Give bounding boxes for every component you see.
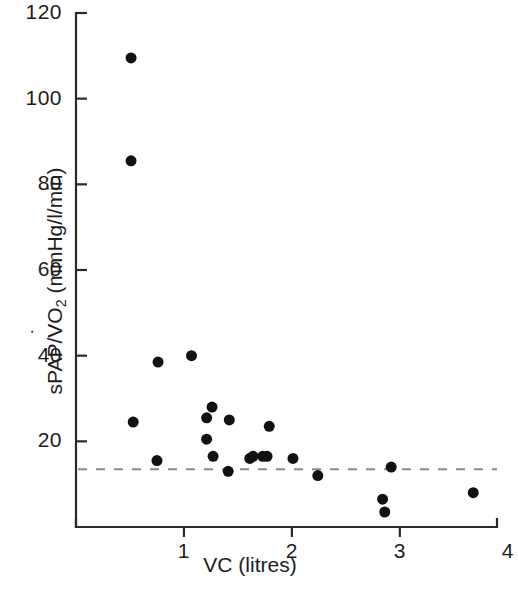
y-axis-title: sPAP/VO2 (mmHg/l/min) (43, 131, 69, 431)
y-axis-title-units: (mmHg/l/min) (43, 168, 66, 300)
data-point (201, 412, 212, 423)
data-point (128, 417, 139, 428)
y-axis-title-o: O (43, 307, 66, 323)
data-point (126, 155, 137, 166)
data-point (386, 462, 397, 473)
data-point (208, 451, 219, 462)
data-point (207, 402, 218, 413)
data-point (153, 357, 164, 368)
data-point (262, 451, 273, 462)
y-tick-label: 100 (0, 86, 62, 110)
data-point (248, 451, 259, 462)
data-points (126, 52, 479, 517)
y-axis-title-prefix: sPAP/ (43, 338, 66, 395)
axes (67, 13, 500, 537)
data-point (224, 414, 235, 425)
data-point (468, 487, 479, 498)
data-point (151, 455, 162, 466)
y-tick-label: 20 (0, 428, 62, 452)
data-point (223, 466, 234, 477)
data-point (126, 52, 137, 63)
data-point (379, 507, 390, 518)
data-point (264, 421, 275, 432)
y-axis-title-v-dot: V (43, 324, 67, 338)
y-tick-label: 120 (0, 0, 62, 24)
data-point (186, 350, 197, 361)
x-axis-title: VC (litres) (0, 553, 500, 577)
data-point (312, 470, 323, 481)
data-point (377, 494, 388, 505)
y-axis-title-o-subscript: 2 (53, 299, 69, 307)
data-point (201, 434, 212, 445)
data-point (287, 453, 298, 464)
